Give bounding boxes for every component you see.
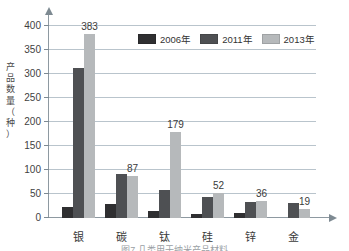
y-tick-label: 400	[24, 20, 41, 31]
y-tick-label: 50	[30, 188, 41, 199]
legend-swatch-2006	[138, 34, 156, 44]
y-tick-label: 200	[24, 116, 41, 127]
y-tick-label: 100	[24, 164, 41, 175]
bar[interactable]: 52	[213, 193, 224, 218]
x-axis-arrow-icon	[329, 214, 337, 222]
bar[interactable]	[288, 203, 299, 218]
y-tick-mark	[44, 73, 49, 74]
y-axis-line	[48, 14, 49, 218]
legend-item-2011[interactable]: 2011年	[200, 32, 252, 46]
y-tick-mark	[44, 145, 49, 146]
bar-value-label: 52	[213, 180, 224, 191]
bar-chart: 产 品 数 量 （ 种 ） 050100150200250300350400 3…	[0, 0, 349, 251]
x-axis-category-label: 银	[73, 228, 84, 244]
bar-group: 383银	[62, 14, 95, 218]
legend: 2006年 2011年 2013年	[138, 32, 315, 46]
bar-value-label: 179	[167, 119, 184, 130]
y-tick-label: 350	[24, 44, 41, 55]
figure-caption: 图7 几类用于纳米产品材料	[0, 243, 349, 251]
bar[interactable]	[202, 197, 213, 218]
bar-value-label: 36	[256, 188, 267, 199]
y-tick-label: 300	[24, 68, 41, 79]
legend-item-2013[interactable]: 2013年	[262, 32, 315, 46]
bar[interactable]	[234, 213, 245, 218]
bar-value-label: 87	[127, 163, 138, 174]
x-axis-category-label: 碳	[116, 228, 127, 244]
y-tick-label: 0	[35, 212, 41, 223]
bar[interactable]: 179	[170, 132, 181, 218]
y-tick-label: 250	[24, 92, 41, 103]
x-axis-category-label: 硅	[202, 228, 213, 244]
y-axis-arrow-icon	[45, 7, 53, 15]
bar[interactable]: 19	[299, 209, 310, 218]
legend-item-2006[interactable]: 2006年	[138, 32, 191, 46]
y-tick-mark	[44, 217, 49, 218]
y-tick-label: 150	[24, 140, 41, 151]
y-tick-mark	[44, 25, 49, 26]
legend-label-2013: 2013年	[284, 32, 315, 46]
bar[interactable]: 87	[127, 176, 138, 218]
y-tick-mark	[44, 193, 49, 194]
bar[interactable]: 36	[256, 201, 267, 218]
bar[interactable]	[148, 211, 159, 218]
y-tick-mark	[44, 49, 49, 50]
bar[interactable]	[159, 190, 170, 218]
bar[interactable]	[105, 204, 116, 218]
y-tick-mark	[44, 169, 49, 170]
bar[interactable]	[73, 68, 84, 218]
bar-value-label: 19	[299, 196, 310, 207]
legend-label-2011: 2011年	[222, 32, 252, 46]
bar[interactable]	[116, 174, 127, 218]
x-axis-category-label: 锌	[245, 228, 256, 244]
legend-swatch-2011	[200, 34, 218, 44]
bar-value-label: 383	[81, 21, 98, 32]
y-axis-title: 产 品 数 量 （ 种 ）	[3, 62, 17, 140]
bar[interactable]	[62, 207, 73, 218]
y-tick-mark	[44, 97, 49, 98]
x-axis-category-label: 钛	[159, 228, 170, 244]
y-tick-mark	[44, 121, 49, 122]
legend-label-2006: 2006年	[160, 32, 191, 46]
bar[interactable]	[191, 214, 202, 218]
x-axis-category-label: 金	[288, 228, 299, 244]
bar-group: 87碳	[105, 14, 138, 218]
bar[interactable]: 383	[84, 34, 95, 218]
bar[interactable]	[245, 202, 256, 218]
legend-swatch-2013	[262, 34, 280, 44]
